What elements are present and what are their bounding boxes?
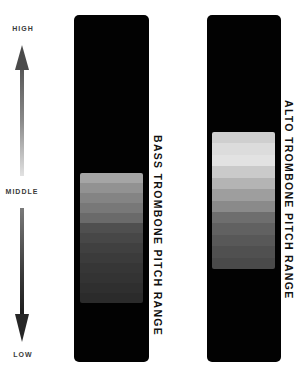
range-band [212,258,275,269]
range-band [80,193,143,203]
range-band [80,263,143,273]
range-band [80,293,143,303]
range-band [212,246,275,257]
bass-trombone-label: BASS TROMBONE PITCH RANGE [152,135,164,336]
range-band [80,233,143,243]
low-label: LOW [8,351,38,358]
range-band [212,155,275,166]
range-band [80,213,143,223]
range-band [80,273,143,283]
range-band [80,253,143,263]
range-band [212,166,275,177]
range-band [80,183,143,193]
range-band [212,178,275,189]
range-band [212,132,275,143]
range-band [80,283,143,293]
range-band [80,223,143,233]
range-band [212,212,275,223]
range-band [212,223,275,234]
range-band [212,189,275,200]
range-band [80,243,143,253]
range-band [212,201,275,212]
range-band [212,143,275,154]
bass-trombone-range-bar [80,173,143,303]
alto-trombone-label: ALTO TROMBONE PITCH RANGE [283,100,295,300]
range-band [212,235,275,246]
range-band [80,203,143,213]
range-band [80,173,143,183]
alto-trombone-range-bar [212,132,275,269]
